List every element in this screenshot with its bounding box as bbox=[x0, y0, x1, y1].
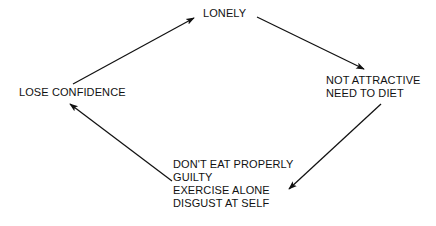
edge-eating-to-lose-confidence bbox=[70, 104, 172, 181]
node-eating-line-4: DISGUST AT SELF bbox=[173, 197, 293, 210]
edge-lonely-to-not-attractive bbox=[257, 17, 364, 69]
node-not-attractive: NOT ATTRACTIVE NEED TO DIET bbox=[326, 74, 421, 100]
node-lose-confidence: LOSE CONFIDENCE bbox=[19, 86, 126, 99]
edge-not-attractive-to-eating bbox=[289, 104, 381, 189]
node-eating-line-1: DON'T EAT PROPERLY bbox=[173, 158, 293, 171]
node-lose-confidence-line-1: LOSE CONFIDENCE bbox=[19, 86, 126, 99]
edge-lose-confidence-to-lonely bbox=[73, 18, 194, 84]
node-lonely-line-1: LONELY bbox=[203, 7, 246, 20]
node-eating-line-3: EXERCISE ALONE bbox=[173, 184, 293, 197]
node-not-attractive-line-2: NEED TO DIET bbox=[326, 87, 421, 100]
cycle-diagram: LONELY NOT ATTRACTIVE NEED TO DIET DON'T… bbox=[0, 0, 436, 226]
node-eating-line-2: GUILTY bbox=[173, 171, 293, 184]
node-not-attractive-line-1: NOT ATTRACTIVE bbox=[326, 74, 421, 87]
node-lonely: LONELY bbox=[203, 7, 246, 20]
node-eating-behaviours: DON'T EAT PROPERLY GUILTY EXERCISE ALONE… bbox=[173, 158, 293, 210]
